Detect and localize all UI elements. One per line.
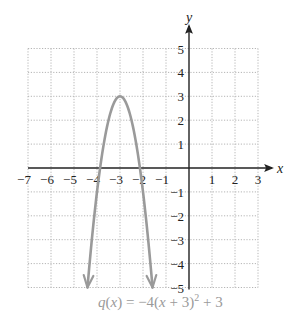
caption-rest: + 3) bbox=[166, 294, 194, 311]
x-tick-label: 1 bbox=[209, 172, 216, 187]
x-tick-label: −1 bbox=[155, 172, 169, 187]
x-tick-label: −7 bbox=[17, 172, 31, 187]
y-tick-label: 3 bbox=[178, 89, 185, 104]
y-tick-label: −4 bbox=[170, 257, 184, 272]
x-axis-label: x bbox=[276, 161, 284, 176]
y-tick-label: −3 bbox=[170, 233, 184, 248]
y-tick-label: 5 bbox=[178, 42, 185, 57]
x-tick-label: 2 bbox=[232, 172, 239, 187]
caption-tail: + 3 bbox=[199, 294, 222, 310]
y-tick-label: 2 bbox=[178, 113, 185, 128]
x-tick-label: −5 bbox=[63, 172, 77, 187]
caption-eq: = −4( bbox=[122, 294, 159, 311]
x-tick-label: −3 bbox=[109, 172, 123, 187]
x-tick-label: −2 bbox=[132, 172, 146, 187]
x-tick-label: 3 bbox=[255, 172, 262, 187]
y-tick-label: −1 bbox=[170, 185, 184, 200]
function-graph: −7−6−5−4−3−2−112354321−1−2−3−4−5 x y q(x… bbox=[0, 0, 288, 315]
y-tick-label: −2 bbox=[170, 209, 184, 224]
y-tick-label: 4 bbox=[178, 65, 185, 80]
x-tick-label: −6 bbox=[40, 172, 54, 187]
y-tick-label: 1 bbox=[178, 137, 185, 152]
function-caption: q(x) = −4(x + 3)2 + 3 bbox=[98, 292, 223, 311]
y-axis-label: y bbox=[184, 10, 193, 25]
